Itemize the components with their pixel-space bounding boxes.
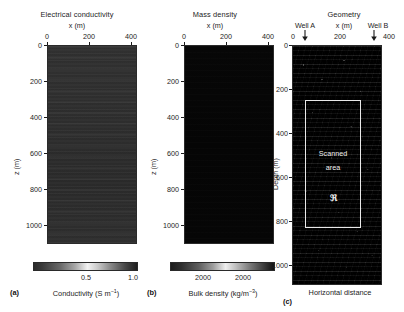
panel-b-xtick-400: 400 [262, 32, 274, 41]
panel-b-colorbar-tick-0: 2000 [195, 273, 211, 282]
panel-a-colorbar-tick-0: 0.5 [81, 273, 91, 282]
panel-b-ytick-mark-600 [181, 153, 184, 154]
panel-b-colorbar-caption-text: Bulk density (kg/m [188, 289, 248, 298]
panel-b-ytick-800: 800 [155, 185, 179, 194]
panel-b-ytick-600: 600 [155, 149, 179, 158]
panel-c-ytick-mark-800 [289, 221, 292, 222]
panel-c-ytick-mark-0 [289, 45, 292, 46]
panel-c-ytick-mark-200 [289, 89, 292, 90]
panel-c-letter: (c) [283, 297, 292, 306]
panel-a-ytick-800: 800 [18, 185, 42, 194]
panel-b-ytick-mark-400 [181, 117, 184, 118]
panel-c-bottom-label: Horizontal distance [288, 288, 392, 297]
panel-c-ytick-mark-1000 [289, 265, 292, 266]
panel-c-x-axis-label: x (m) [330, 21, 358, 30]
panel-b-ytick-0: 0 [155, 41, 179, 50]
panel-a-colorbar [33, 262, 138, 271]
panel-c-ytick-0: 0 [276, 41, 288, 50]
well-b-arrow-icon [371, 30, 378, 41]
panel-a-colorbar-caption-close: ) [117, 289, 119, 298]
panel-c-ytick-1000: 1000 [260, 261, 288, 270]
panel-c-xtick-0: 0 [291, 32, 295, 41]
panel-c-ytick-600: 600 [264, 173, 288, 182]
panel-a-title: Electrical conductivity [14, 10, 140, 19]
panel-a-ytick-mark-1000 [44, 225, 47, 226]
panel-b-ytick-mark-0 [181, 45, 184, 46]
panel-a-x-axis-label: x (m) [14, 21, 140, 30]
panel-a-ytick-mark-400 [44, 117, 47, 118]
panel-b-letter: (b) [147, 288, 156, 297]
panel-b-ytick-mark-200 [181, 81, 184, 82]
panel-a-ytick-600: 600 [18, 149, 42, 158]
panel-b-colorbar-caption: Bulk density (kg/m−3) [153, 288, 293, 298]
panel-c-image [292, 45, 382, 285]
panel-a-ytick-400: 400 [18, 113, 42, 122]
panel-c-ytick-mark-600 [289, 177, 292, 178]
panel-c-ytick-800: 800 [264, 217, 288, 226]
figure-root: Electrical conductivity x (m) 0 200 400 … [0, 0, 404, 312]
panel-a-ytick-0: 0 [18, 41, 42, 50]
well-a-arrow-icon [302, 30, 309, 41]
panel-c-xtick-400: 400 [383, 32, 395, 41]
panel-a-ytick-mark-600 [44, 153, 47, 154]
panel-b-xtick-200: 200 [220, 32, 232, 41]
panel-a-colorbar-tick-1: 1.0 [128, 273, 138, 282]
panel-a-ytick-200: 200 [18, 77, 42, 86]
panel-a-xtick-0: 0 [45, 32, 49, 41]
panel-b-ytick-mark-1000 [181, 225, 184, 226]
panel-a-letter: (a) [10, 288, 19, 297]
panel-c-ytick-200: 200 [264, 85, 288, 94]
panel-c-ytick-400: 400 [264, 129, 288, 138]
panel-b-x-axis-label: x (m) [152, 21, 278, 30]
panel-c-noise-texture [293, 46, 381, 284]
panel-a-image [47, 45, 137, 244]
panel-a-xtick-200: 200 [83, 32, 95, 41]
panel-b-colorbar-caption-close: ) [255, 289, 257, 298]
panel-b-ytick-1000: 1000 [151, 221, 179, 230]
panel-a-colorbar-caption-text: Conductivity (S m [53, 289, 111, 298]
panel-b-image [184, 45, 274, 244]
panel-b-ytick-mark-800 [181, 189, 184, 190]
panel-a-ytick-mark-200 [44, 81, 47, 82]
well-a-label: Well A [295, 21, 315, 30]
panel-a-ytick-mark-800 [44, 189, 47, 190]
panel-c-xtick-200: 200 [334, 32, 346, 41]
panel-b-title: Mass density [152, 10, 278, 19]
panel-b-ytick-400: 400 [155, 113, 179, 122]
panel-c-ytick-mark-400 [289, 133, 292, 134]
panel-b-y-axis-label: z (m) [149, 159, 158, 175]
panel-b-colorbar-tick-1: 2000 [235, 273, 251, 282]
panel-a-y-axis-label: z (m) [12, 159, 21, 175]
panel-a-colorbar-caption: Conductivity (S m−1) [16, 288, 156, 298]
panel-a-ytick-1000: 1000 [14, 221, 42, 230]
panel-a-ytick-mark-0 [44, 45, 47, 46]
well-b-label: Well B [368, 21, 389, 30]
panel-b-xtick-0: 0 [182, 32, 186, 41]
panel-a-xtick-400: 400 [125, 32, 137, 41]
panel-b-ytick-200: 200 [155, 77, 179, 86]
panel-c-title: Geometry [292, 10, 396, 19]
